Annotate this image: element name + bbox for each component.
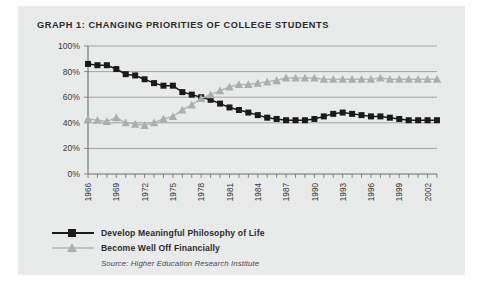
data-point bbox=[94, 62, 100, 68]
legend-item-financial: Become Well Off Financially bbox=[52, 240, 452, 255]
data-point bbox=[434, 117, 440, 123]
data-point bbox=[283, 117, 289, 123]
chart-legend: Develop Meaningful Philosophy of Life Be… bbox=[52, 225, 452, 255]
data-point bbox=[123, 71, 129, 77]
data-point bbox=[206, 90, 214, 98]
x-axis-tick-label: 1996 bbox=[367, 183, 376, 202]
x-axis-tick-label: 1999 bbox=[395, 183, 404, 202]
x-axis-tick-label: 2002 bbox=[424, 183, 433, 202]
x-axis-tick-label: 1993 bbox=[339, 183, 348, 202]
data-point bbox=[368, 113, 374, 119]
x-axis-tick-label: 1990 bbox=[311, 183, 320, 202]
data-point bbox=[179, 89, 185, 95]
data-point bbox=[377, 113, 383, 119]
series-line-philosophy bbox=[88, 64, 437, 120]
data-point bbox=[170, 83, 176, 89]
legend-label-philosophy: Develop Meaningful Philosophy of Life bbox=[101, 228, 265, 238]
data-point bbox=[245, 110, 251, 116]
legend-swatch-triangle-icon bbox=[52, 242, 94, 253]
data-point bbox=[189, 92, 195, 98]
x-axis-tick-label: 1966 bbox=[84, 183, 93, 202]
data-point bbox=[406, 117, 412, 123]
legend-swatch-square-icon bbox=[52, 227, 94, 238]
x-axis-tick-label: 1987 bbox=[282, 183, 291, 202]
data-point bbox=[216, 87, 224, 95]
y-axis-tick-label: 80% bbox=[63, 67, 81, 77]
data-point bbox=[387, 115, 393, 121]
data-point bbox=[349, 111, 355, 117]
x-axis-tick-label: 1975 bbox=[169, 183, 178, 202]
x-axis-tick-label: 1984 bbox=[254, 183, 263, 202]
data-point bbox=[415, 117, 421, 123]
data-point bbox=[104, 62, 110, 68]
x-axis-tick-label: 1978 bbox=[197, 183, 206, 202]
data-point bbox=[425, 117, 431, 123]
data-point bbox=[236, 107, 242, 113]
data-point bbox=[321, 113, 327, 119]
x-axis-tick-label: 1972 bbox=[141, 183, 150, 202]
data-point bbox=[293, 117, 299, 123]
series-line-financial bbox=[88, 78, 437, 125]
y-axis-tick-label: 60% bbox=[63, 92, 81, 102]
y-axis-tick-label: 0% bbox=[68, 169, 81, 179]
data-point bbox=[178, 106, 186, 114]
y-axis-tick-label: 100% bbox=[58, 41, 80, 51]
data-point bbox=[330, 111, 336, 117]
data-point bbox=[151, 80, 157, 86]
y-axis-tick-label: 20% bbox=[63, 143, 81, 153]
source-note: Source: Higher Education Research Instit… bbox=[101, 259, 259, 268]
data-point bbox=[142, 76, 148, 82]
data-point bbox=[188, 101, 196, 109]
data-point bbox=[396, 116, 402, 122]
data-point bbox=[274, 116, 280, 122]
data-point bbox=[217, 101, 223, 107]
data-point bbox=[85, 61, 91, 67]
legend-item-philosophy: Develop Meaningful Philosophy of Life bbox=[52, 225, 452, 240]
y-axis-tick-label: 40% bbox=[63, 118, 81, 128]
legend-label-financial: Become Well Off Financially bbox=[101, 243, 220, 253]
data-point bbox=[132, 72, 138, 78]
data-point bbox=[340, 110, 346, 116]
x-axis-tick-label: 1981 bbox=[226, 183, 235, 202]
data-point bbox=[169, 112, 177, 120]
data-point bbox=[255, 112, 261, 118]
data-point bbox=[359, 112, 365, 118]
data-point bbox=[302, 117, 308, 123]
data-point bbox=[311, 116, 317, 122]
data-point bbox=[112, 113, 120, 121]
x-axis-tick-label: 1969 bbox=[112, 183, 121, 202]
data-point bbox=[113, 66, 119, 72]
data-point bbox=[226, 104, 232, 110]
figure-panel: GRAPH 1: CHANGING PRIORITIES OF COLLEGE … bbox=[18, 6, 465, 275]
data-point bbox=[160, 83, 166, 89]
data-point bbox=[264, 115, 270, 121]
